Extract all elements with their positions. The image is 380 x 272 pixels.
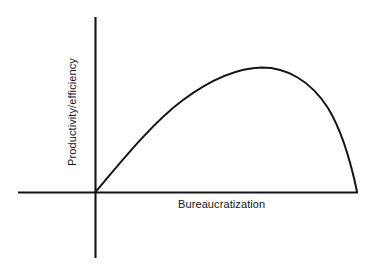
productivity-curve xyxy=(96,68,358,193)
y-axis-label: Productivity/efficiency xyxy=(67,58,78,166)
x-axis-label: Bureaucratization xyxy=(178,199,265,210)
chart-plot-area xyxy=(0,0,380,272)
chart-figure: Bureaucratization Productivity/efficienc… xyxy=(0,0,380,272)
